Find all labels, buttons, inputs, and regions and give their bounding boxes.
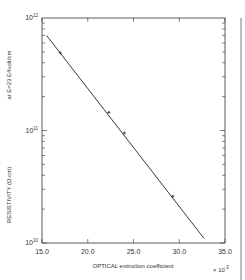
x-tick-label: 30.0 (172, 248, 186, 255)
y-axis-title: RESISTIVITY (Ω.cm) (6, 167, 12, 223)
data-series (47, 35, 204, 238)
x-tick-label: 35.0 (218, 248, 232, 255)
x-tick-label: 20.0 (81, 248, 95, 255)
x-axis-multiplier: × 10-3 (213, 265, 229, 273)
resistivity-chart: 15.020.025.030.035.0101010111012 OPTICAL… (0, 0, 245, 280)
x-tick-label: 15.0 (35, 248, 49, 255)
fit-line (47, 35, 204, 238)
plot-frame (42, 18, 225, 243)
tick-labels: 15.020.025.030.035.0101010111012 (25, 13, 232, 255)
y-axis-annotation: at E=23 E4volt/cm (6, 51, 12, 100)
axes-box (42, 18, 225, 243)
y-tick-label: 1010 (25, 238, 38, 246)
x-tick-label: 25.0 (127, 248, 141, 255)
y-tick-label: 1012 (25, 13, 38, 21)
x-axis-title: OPTICAL extinction coefficient (92, 263, 173, 269)
y-tick-label: 1011 (26, 126, 39, 134)
axis-ticks (42, 18, 225, 243)
